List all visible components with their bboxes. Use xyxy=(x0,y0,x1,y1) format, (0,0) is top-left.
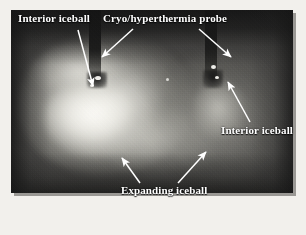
film-grain-overlay-2 xyxy=(11,10,293,193)
label-interior-iceball-right: Interior iceball xyxy=(221,124,293,136)
photograph xyxy=(11,10,293,193)
label-interior-iceball-left: Interior iceball xyxy=(18,12,90,24)
label-expanding-iceball: Expanding iceball xyxy=(121,184,207,196)
figure-page: Interior iceball Cryo/hyperthermia probe… xyxy=(0,0,306,235)
label-cryo-hyperthermia-probe: Cryo/hyperthermia probe xyxy=(103,12,227,24)
